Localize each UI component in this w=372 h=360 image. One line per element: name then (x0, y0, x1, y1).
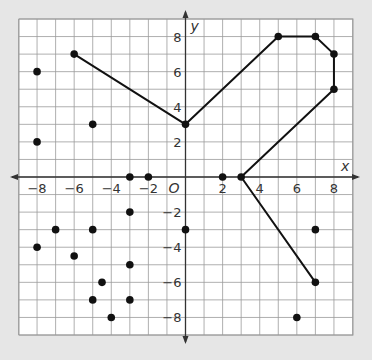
x-axis-arrow-right-icon (352, 174, 360, 180)
x-tick-label: −6 (65, 181, 84, 196)
x-tick-label: −4 (102, 181, 121, 196)
x-tick-label: 2 (218, 181, 226, 196)
y-tick-label: 6 (173, 65, 181, 80)
vertex-point (237, 173, 245, 181)
y-axis-arrow-down-icon (183, 336, 189, 344)
data-point (126, 173, 134, 181)
x-tick-label: 4 (256, 181, 264, 196)
data-point (89, 121, 97, 129)
origin-label: O (168, 180, 179, 196)
data-point (126, 296, 134, 304)
data-point (219, 173, 227, 181)
x-tick-label: 8 (330, 181, 338, 196)
data-point (126, 208, 134, 216)
y-tick-label: 8 (173, 30, 181, 45)
data-point (33, 138, 41, 146)
vertex-point (274, 33, 282, 41)
vertex-point (182, 121, 190, 129)
y-tick-label: −2 (162, 205, 181, 220)
vertex-point (312, 279, 320, 287)
y-tick-label: −4 (162, 240, 181, 255)
y-axis-arrow-up-icon (183, 10, 189, 18)
data-point (126, 261, 134, 269)
x-tick-label: −2 (139, 181, 158, 196)
data-point (70, 252, 78, 260)
data-point (52, 226, 60, 234)
y-tick-label: 4 (173, 100, 181, 115)
data-point (98, 279, 106, 287)
y-tick-label: 2 (173, 135, 181, 150)
vertex-point (312, 33, 320, 41)
y-tick-label: −8 (162, 310, 181, 325)
data-point (145, 173, 153, 181)
data-point (89, 296, 97, 304)
data-point (293, 314, 301, 322)
y-axis-label: y (190, 18, 200, 34)
coordinate-plane: −8−6−4−224688642−2−4−6−8Oxy (0, 0, 372, 360)
data-point (33, 243, 41, 251)
data-point (33, 68, 41, 76)
vertex-point (330, 50, 338, 58)
data-point (107, 314, 115, 322)
x-axis-label: x (340, 158, 350, 174)
x-axis-arrow-left-icon (10, 174, 18, 180)
data-point (89, 226, 97, 234)
x-tick-label: 6 (293, 181, 301, 196)
vertex-point (330, 85, 338, 93)
data-point (182, 226, 190, 234)
data-point (312, 226, 320, 234)
x-tick-label: −8 (27, 181, 46, 196)
vertex-point (70, 50, 78, 58)
y-tick-label: −6 (162, 275, 181, 290)
